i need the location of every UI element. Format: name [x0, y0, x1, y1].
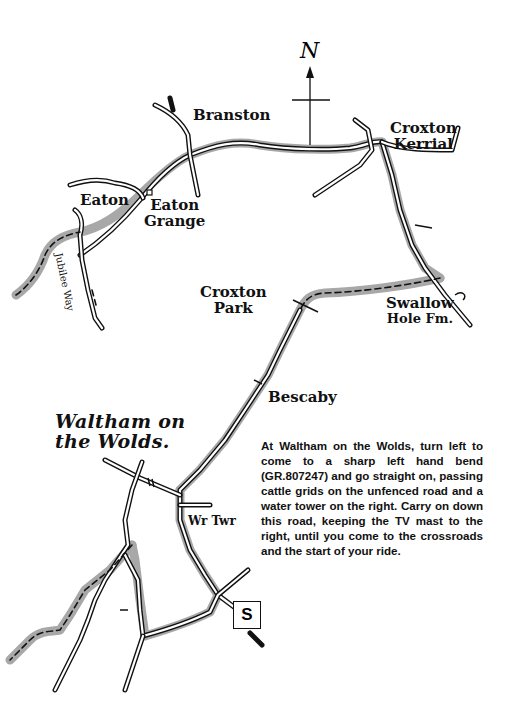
- place-eaton: Eaton: [80, 193, 129, 209]
- place-branston: Branston: [193, 108, 271, 124]
- place-line: the Wolds.: [55, 432, 185, 452]
- place-line: Swallow: [386, 296, 454, 312]
- place-line: Kerrial: [390, 137, 457, 153]
- place-swallow-hole-fm: Swallow Hole Fm.: [386, 296, 454, 325]
- path-jubilee-way: Jubilee Way: [63, 248, 122, 264]
- place-water-tower: Wr Twr: [188, 515, 236, 528]
- place-waltham-on-the-wolds: Waltham on the Wolds.: [55, 412, 185, 452]
- place-bescaby: Bescaby: [268, 390, 337, 406]
- place-line: Grange: [144, 214, 205, 230]
- place-eaton-grange: Eaton Grange: [144, 198, 205, 230]
- roads: [55, 98, 470, 690]
- directions-text: At Waltham on the Wolds, turn left to co…: [261, 438, 483, 558]
- north-arrow-icon: [292, 66, 330, 145]
- place-croxton-kerrial: Croxton Kerrial: [390, 121, 457, 153]
- place-line: Park: [200, 301, 267, 317]
- place-line: Waltham on: [55, 412, 185, 432]
- start-marker: S: [233, 601, 261, 629]
- eaton-grange-marker: [147, 190, 152, 195]
- place-line: Hole Fm.: [386, 312, 454, 326]
- place-croxton-park: Croxton Park: [200, 285, 267, 317]
- north-label: N: [300, 38, 319, 63]
- route-highlight: [10, 142, 440, 660]
